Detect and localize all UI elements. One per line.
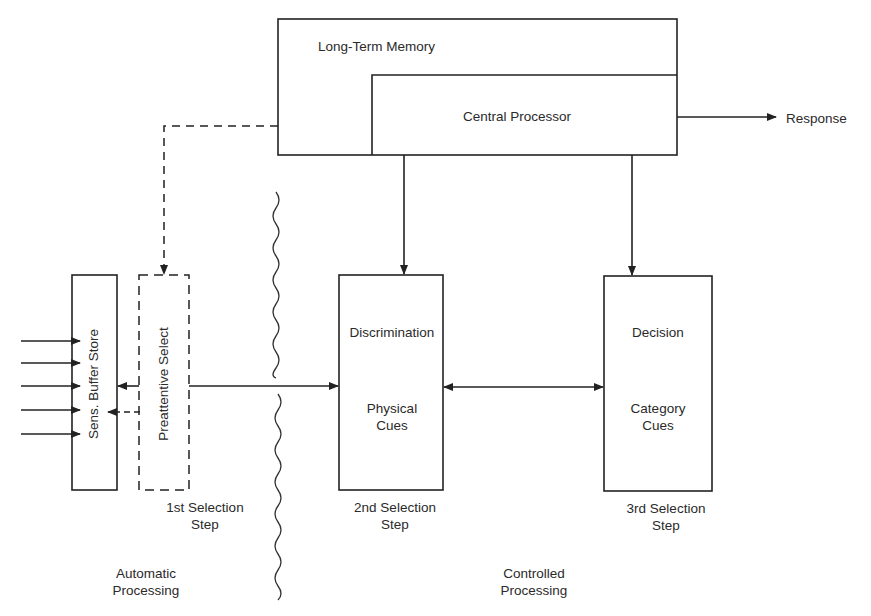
first-selection-step-label-2: Step bbox=[140, 516, 270, 533]
third-selection-step-label-2: Step bbox=[601, 517, 731, 534]
long-term-memory-label: Long-Term Memory bbox=[318, 38, 435, 55]
controlled-processing-label-2: Processing bbox=[484, 582, 584, 599]
automatic-processing-label-2: Processing bbox=[96, 582, 196, 599]
decision-box bbox=[604, 276, 712, 491]
first-selection-step-label: 1st Selection bbox=[140, 499, 270, 516]
decision-label: Decision bbox=[604, 324, 712, 341]
discrimination-box bbox=[339, 275, 443, 490]
wavy-divider-upper bbox=[273, 192, 279, 378]
wavy-divider-lower bbox=[275, 394, 281, 600]
category-cues-label: Cues bbox=[604, 417, 712, 434]
preattentive-select-label: Preattentive Select bbox=[154, 324, 174, 444]
sensory-buffer-store-label: Sens. Buffer Store bbox=[84, 324, 104, 444]
ltm-to-preattentive-dashed-arrow bbox=[164, 126, 278, 274]
third-selection-step-label: 3rd Selection bbox=[601, 500, 731, 517]
second-selection-step-label-2: Step bbox=[330, 516, 460, 533]
central-processor-label: Central Processor bbox=[463, 108, 571, 125]
physical-label: Physical bbox=[339, 400, 445, 417]
discrimination-label: Discrimination bbox=[339, 324, 445, 341]
physical-cues-label: Cues bbox=[339, 417, 445, 434]
second-selection-step-label: 2nd Selection bbox=[330, 499, 460, 516]
response-label: Response bbox=[786, 110, 847, 127]
automatic-processing-label: Automatic bbox=[96, 565, 196, 582]
category-label: Category bbox=[604, 400, 712, 417]
controlled-processing-label: Controlled bbox=[484, 565, 584, 582]
sensory-input-arrows bbox=[21, 341, 80, 434]
